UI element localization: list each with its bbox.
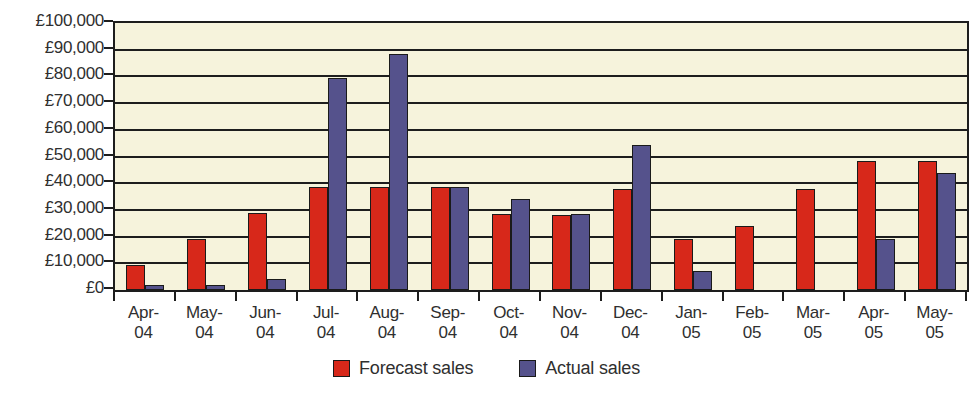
legend-item-actual[interactable]: Actual sales (519, 358, 640, 379)
bar-group (541, 23, 602, 290)
x-axis-label-month: Jun- (249, 303, 281, 322)
x-axis-label-month: Oct- (493, 303, 524, 322)
bar-group (358, 23, 419, 290)
bar-group (663, 23, 724, 290)
bar-actual (937, 173, 956, 290)
bar-group (724, 23, 785, 290)
x-axis-label: Nov-04 (539, 303, 600, 343)
x-axis-tick-mark (843, 290, 845, 301)
bar-actual (267, 279, 286, 290)
x-axis-tick-mark (174, 290, 176, 301)
bar-group (784, 23, 845, 290)
bar-group (906, 23, 967, 290)
y-axis-tick-mark (104, 207, 113, 209)
bar-group (845, 23, 906, 290)
plot-area (113, 21, 969, 292)
bar-group (115, 23, 176, 290)
x-axis-tick-mark (356, 290, 358, 301)
x-axis-label-year: 05 (722, 323, 783, 343)
bar-forecast (613, 189, 632, 290)
y-axis-tick-mark (104, 180, 113, 182)
chart-legend: Forecast salesActual sales (0, 358, 973, 379)
x-axis-tick-mark (661, 290, 663, 301)
x-axis-tick-mark (539, 290, 541, 301)
y-axis-tick-label: £10,000 (45, 251, 104, 271)
y-axis-tick-label: £80,000 (45, 64, 104, 84)
x-axis-label: Dec-04 (600, 303, 661, 343)
x-axis-label: Jul-04 (296, 303, 357, 343)
x-axis-label: Jun-04 (235, 303, 296, 343)
x-axis-label-year: 04 (600, 323, 661, 343)
y-axis-tick-label: £50,000 (45, 145, 104, 165)
bar-chart: £100,000£90,000£80,000£70,000£60,000£50,… (0, 0, 973, 406)
bar-group (419, 23, 480, 290)
legend-swatch-actual (519, 360, 536, 377)
x-axis-label-year: 04 (417, 323, 478, 343)
bar-forecast (492, 214, 511, 290)
x-axis-label-year: 04 (296, 323, 357, 343)
bar-forecast (248, 213, 267, 290)
y-axis-tick-label: £90,000 (45, 38, 104, 58)
bar-actual (876, 239, 895, 290)
bars-layer (115, 23, 967, 290)
x-axis-label-year: 04 (539, 323, 600, 343)
y-axis-tick-label: £60,000 (45, 118, 104, 138)
x-axis-label-month: May- (186, 303, 223, 322)
x-axis-label: Feb-05 (722, 303, 783, 343)
x-axis-label-month: Apr- (858, 303, 889, 322)
x-axis-label: Apr-05 (843, 303, 904, 343)
bar-group (298, 23, 359, 290)
bar-group (237, 23, 298, 290)
y-axis-tick-label: £30,000 (45, 198, 104, 218)
x-axis-tick-mark (417, 290, 419, 301)
bar-forecast (918, 161, 937, 290)
bar-forecast (431, 187, 450, 290)
bar-actual (328, 78, 347, 290)
x-axis-label-month: Jan- (675, 303, 707, 322)
x-axis-label-month: Dec- (613, 303, 648, 322)
x-axis-tick-mark (600, 290, 602, 301)
legend-swatch-forecast (333, 360, 350, 377)
y-axis-tick-mark (104, 73, 113, 75)
x-axis-tick-mark (782, 290, 784, 301)
x-axis-label-year: 04 (113, 323, 174, 343)
x-axis-label: Mar-05 (782, 303, 843, 343)
bar-actual (389, 54, 408, 290)
x-axis-label: Sep-04 (417, 303, 478, 343)
bar-forecast (735, 226, 754, 290)
legend-label: Actual sales (545, 358, 640, 379)
y-axis: £100,000£90,000£80,000£70,000£60,000£50,… (0, 21, 112, 288)
x-axis-label: Oct-04 (478, 303, 539, 343)
x-axis-label: Jan-05 (661, 303, 722, 343)
y-axis-tick-mark (104, 20, 113, 22)
x-axis-label-year: 05 (843, 323, 904, 343)
bar-group (602, 23, 663, 290)
bar-group (176, 23, 237, 290)
x-axis-label-year: 04 (235, 323, 296, 343)
y-axis-tick-mark (104, 260, 113, 262)
x-axis-label-month: Feb- (735, 303, 769, 322)
y-axis-tick-mark (104, 234, 113, 236)
bar-forecast (552, 215, 571, 290)
y-axis-tick-label: £0 (86, 278, 104, 298)
x-axis-tick-mark (722, 290, 724, 301)
x-axis-labels: Apr-04May-04Jun-04Jul-04Aug-04Sep-04Oct-… (113, 303, 965, 343)
y-axis-tick-mark (104, 127, 113, 129)
y-axis-tick-label: £70,000 (45, 91, 104, 111)
x-axis-label-year: 05 (904, 323, 965, 343)
x-axis-label-month: Jul- (313, 303, 339, 322)
y-axis-tick-label: £100,000 (35, 11, 104, 31)
x-axis-label-month: Mar- (796, 303, 830, 322)
x-axis-label-year: 04 (356, 323, 417, 343)
y-axis-tick-mark (104, 154, 113, 156)
bar-actual (511, 199, 530, 290)
legend-item-forecast[interactable]: Forecast sales (333, 358, 473, 379)
bar-actual (693, 271, 712, 290)
bar-forecast (126, 265, 145, 290)
x-axis-label-month: May- (916, 303, 953, 322)
x-axis-tick-mark (113, 290, 115, 301)
bar-forecast (674, 239, 693, 290)
y-axis-tick-label: £20,000 (45, 225, 104, 245)
x-axis-label: May-05 (904, 303, 965, 343)
bar-group (480, 23, 541, 290)
